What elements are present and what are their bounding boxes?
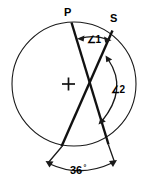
arc-36-value: 36 [70, 164, 82, 176]
angle-2-annotation: ∠2 [99, 56, 126, 125]
arc-36-annotation: 36 ° [46, 145, 118, 176]
geometry-canvas: ∠1 ∠2 36 ° P S [0, 0, 149, 186]
center-mark-icon [62, 78, 75, 91]
arc-36-leader-left [48, 147, 62, 163]
angle-2-label: ∠2 [111, 84, 126, 95]
arc-36-leader-right [109, 145, 115, 162]
angle-1-label: ∠1 [87, 34, 102, 45]
arc-36-degree-symbol: ° [84, 164, 87, 171]
point-s-label: S [110, 12, 117, 24]
geometry-figure: ∠1 ∠2 36 ° P S [0, 0, 149, 186]
point-p-label: P [64, 6, 71, 18]
